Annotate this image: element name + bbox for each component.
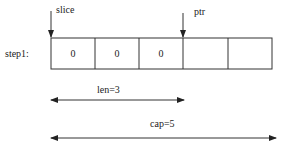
slice-label: slice (56, 4, 74, 16)
ptr-label: ptr (194, 6, 205, 18)
step-label: step1: (5, 48, 29, 60)
cell-2-value: 0 (139, 48, 183, 60)
cell-1-value: 0 (95, 48, 139, 60)
cap-label: cap=5 (150, 118, 175, 130)
slice-diagram (0, 0, 282, 152)
cell-0-value: 0 (51, 48, 95, 60)
len-label: len=3 (97, 84, 120, 96)
